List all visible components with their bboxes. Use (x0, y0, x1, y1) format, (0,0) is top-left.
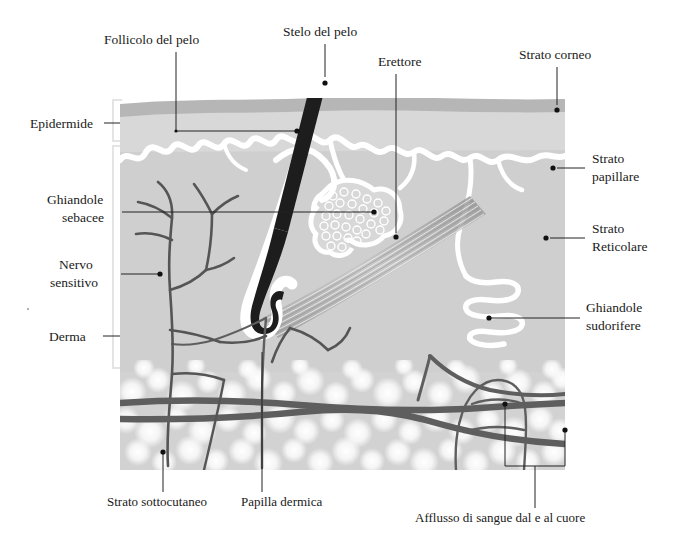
label-strato-reticolare-line2: Reticolare (592, 239, 647, 254)
label-ghiandole-sudorifere-line2: sudorifere (586, 318, 641, 333)
label-stelo-del-pelo: Stelo del pelo (283, 24, 357, 39)
skin-anatomy-diagram: Follicolo del pelo Stelo del pelo Eretto… (0, 0, 676, 550)
stray-speck (27, 308, 29, 310)
dot-stelo (322, 80, 327, 85)
label-strato-papillare-line1: Strato (592, 151, 624, 166)
dot-strato-corneo (554, 107, 559, 112)
diagram-canvas: Follicolo del pelo Stelo del pelo Eretto… (0, 0, 676, 550)
label-ghiandole-sebacee-line2: sebacee (62, 210, 104, 225)
label-derma: Derma (49, 329, 86, 344)
label-papilla-dermica: Papilla dermica (241, 494, 322, 509)
label-strato-papillare-line2: papillare (592, 169, 639, 184)
dot-strato-sottocutaneo (160, 449, 165, 454)
dot-afflusso-a (502, 401, 507, 406)
label-strato-sottocutaneo: Strato sottocutaneo (107, 494, 207, 509)
label-nervo-sensitivo-line1: Nervo (59, 257, 93, 272)
dot-follicolo-corner (174, 129, 177, 132)
label-strato-corneo: Strato corneo (519, 47, 592, 62)
dot-erettore (393, 234, 398, 239)
dot-nervo-sensitivo (157, 271, 162, 276)
dot-strato-reticolare (543, 235, 548, 240)
label-epidermide: Epidermide (30, 116, 93, 131)
label-ghiandole-sebacee-line1: Ghiandole (47, 192, 103, 207)
label-strato-reticolare-line1: Strato (592, 221, 624, 236)
dot-ghiandole-sudorifere (486, 315, 491, 320)
dot-follicolo (294, 128, 299, 133)
dot-strato-papillare (550, 165, 555, 170)
label-afflusso-di-sangue: Afflusso di sangue dal e al cuore (415, 510, 585, 525)
label-ghiandole-sudorifere-line1: Ghiandole (586, 300, 642, 315)
label-follicolo-del-pelo: Follicolo del pelo (104, 32, 199, 47)
label-nervo-sensitivo-line2: sensitivo (50, 275, 98, 290)
dot-afflusso-b (562, 427, 567, 432)
dot-ghiandole-sebacee (371, 209, 376, 214)
label-erettore: Erettore (378, 54, 421, 69)
